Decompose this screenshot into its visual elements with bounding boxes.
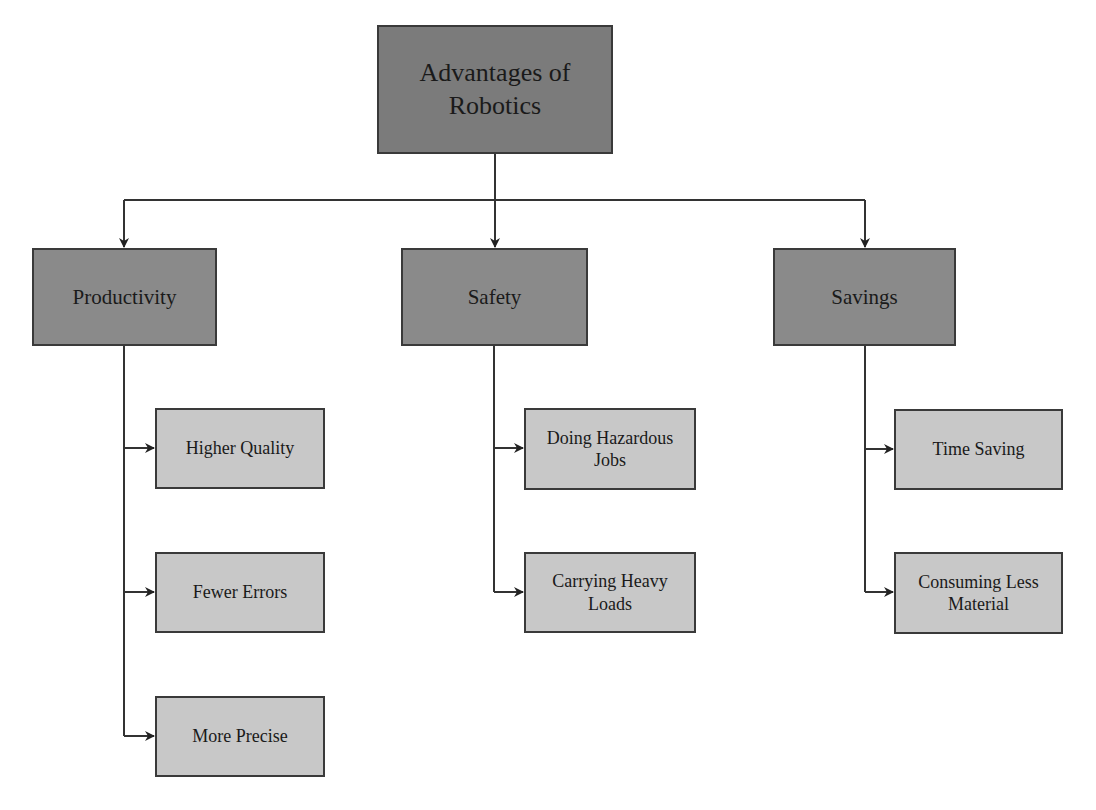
root-label-line1: Advantages of — [420, 57, 571, 90]
leaf-label: More Precise — [192, 725, 287, 748]
leaf-label-line2: Material — [918, 593, 1039, 616]
leaf-node-higher-quality: Higher Quality — [155, 408, 325, 489]
category-label: Safety — [468, 284, 522, 310]
leaf-label-line1: Consuming Less — [918, 571, 1039, 594]
leaf-node-fewer-errors: Fewer Errors — [155, 552, 325, 633]
leaf-label: Time Saving — [933, 438, 1025, 461]
leaf-label-line1: Carrying Heavy — [552, 570, 667, 593]
root-node: Advantages of Robotics — [377, 25, 613, 154]
leaf-node-hazardous-jobs: Doing Hazardous Jobs — [524, 408, 696, 490]
category-node-safety: Safety — [401, 248, 588, 346]
leaf-label-line1: Doing Hazardous — [547, 427, 673, 450]
leaf-label: Higher Quality — [186, 437, 294, 460]
leaf-node-less-material: Consuming Less Material — [894, 552, 1063, 634]
category-label: Productivity — [73, 284, 177, 310]
leaf-node-heavy-loads: Carrying Heavy Loads — [524, 552, 696, 633]
robotics-advantages-diagram: Advantages of Robotics Productivity Safe… — [0, 0, 1096, 810]
leaf-node-time-saving: Time Saving — [894, 409, 1063, 490]
leaf-node-more-precise: More Precise — [155, 696, 325, 777]
leaf-label: Fewer Errors — [193, 581, 287, 604]
root-label-line2: Robotics — [420, 90, 571, 123]
category-label: Savings — [831, 284, 898, 310]
category-node-productivity: Productivity — [32, 248, 217, 346]
category-node-savings: Savings — [773, 248, 956, 346]
leaf-label-line2: Loads — [552, 593, 667, 616]
leaf-label-line2: Jobs — [547, 449, 673, 472]
